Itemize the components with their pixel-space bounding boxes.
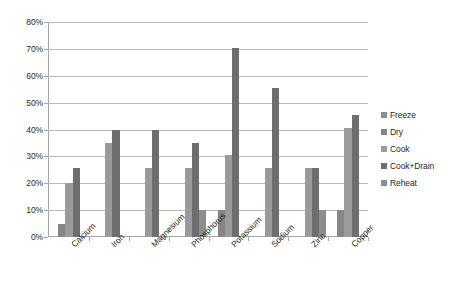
bar-slot — [305, 22, 312, 237]
bar — [73, 168, 80, 237]
y-axis-tick-mark — [44, 49, 48, 50]
bar-slot — [297, 22, 304, 237]
bar-slot — [352, 22, 359, 237]
legend-item-label: Cook — [390, 144, 409, 154]
legend-item-label: Reheat — [390, 178, 417, 188]
bar-slot — [265, 22, 272, 237]
bar-slot — [330, 22, 337, 237]
legend-item: Dry — [381, 123, 451, 140]
bar-group — [288, 22, 328, 237]
legend-swatch-icon — [381, 163, 387, 169]
bar-slot — [258, 22, 265, 237]
bar-slot — [178, 22, 185, 237]
legend-item-label: Dry — [390, 127, 403, 137]
bar-slot — [312, 22, 319, 237]
bar-slot — [65, 22, 72, 237]
bar — [105, 143, 112, 237]
bar — [232, 48, 239, 237]
bar — [265, 168, 272, 237]
x-axis-label-cell: Potassium — [209, 240, 249, 292]
y-axis-tick-label: 80% — [26, 17, 43, 27]
bar-group — [169, 22, 209, 237]
bar-slot — [199, 22, 206, 237]
bar-slot — [138, 22, 145, 237]
bar-slot — [80, 22, 87, 237]
bar-group — [328, 22, 368, 237]
bar-groups — [49, 22, 368, 237]
y-axis-tick-label: 70% — [26, 44, 43, 54]
bar — [352, 115, 359, 237]
bar — [65, 183, 72, 237]
x-axis-label-cell: Iron — [89, 240, 129, 292]
bar — [58, 224, 65, 237]
bar-slot — [58, 22, 65, 237]
bar — [344, 128, 351, 237]
legend-item: Cook+Drain — [381, 157, 451, 174]
bar-slot — [290, 22, 297, 237]
y-axis-tick-mark — [44, 130, 48, 131]
bar — [112, 130, 119, 238]
legend-item-label: Freeze — [390, 110, 416, 120]
bar-slot — [319, 22, 326, 237]
bar-slot — [359, 22, 366, 237]
legend-swatch-icon — [381, 180, 387, 186]
x-axis-label-cell: Sodium — [249, 240, 289, 292]
bar-slot — [344, 22, 351, 237]
bar-group — [129, 22, 169, 237]
x-axis-label-cell: Zinc — [289, 240, 329, 292]
x-axis-labels: CalciumIronMagnesiumPhosphorusPotassiumS… — [49, 240, 369, 292]
bar-slot — [91, 22, 98, 237]
legend-item-label: Cook+Drain — [390, 161, 434, 171]
bar — [337, 210, 344, 237]
bar-slot — [279, 22, 286, 237]
legend-item: Freeze — [381, 106, 451, 123]
bar-slot — [185, 22, 192, 237]
y-axis-tick-label: 60% — [26, 71, 43, 81]
bar-slot — [105, 22, 112, 237]
legend-swatch-icon — [381, 146, 387, 152]
y-axis-tick-label: 0% — [31, 232, 43, 242]
x-axis-label-cell: Phosphorus — [169, 240, 209, 292]
x-axis-label-cell: Copper — [329, 240, 369, 292]
y-axis-tick-mark — [44, 22, 48, 23]
legend-swatch-icon — [381, 129, 387, 135]
bar-slot — [192, 22, 199, 237]
plot-area: 0%10%20%30%40%50%60%70%80% — [48, 22, 368, 237]
y-axis-tick-mark — [44, 237, 48, 238]
bar-group — [248, 22, 288, 237]
y-axis-tick-mark — [44, 156, 48, 157]
bar — [312, 168, 319, 237]
bar — [152, 130, 159, 238]
bar-slot — [171, 22, 178, 237]
legend-item: Reheat — [381, 174, 451, 191]
bar-group — [49, 22, 89, 237]
bar-slot — [159, 22, 166, 237]
y-axis-tick-mark — [44, 76, 48, 77]
bar-slot — [98, 22, 105, 237]
bar — [192, 143, 199, 237]
bar-slot — [73, 22, 80, 237]
bar-slot — [112, 22, 119, 237]
bar-slot — [145, 22, 152, 237]
chart-legend: FreezeDryCookCook+DrainReheat — [381, 106, 451, 191]
y-axis-tick-mark — [44, 210, 48, 211]
bar — [305, 168, 312, 237]
y-axis-tick-label: 10% — [26, 205, 43, 215]
y-axis-tick-mark — [44, 103, 48, 104]
y-axis-tick-label: 50% — [26, 98, 43, 108]
bar-slot — [218, 22, 225, 237]
legend-swatch-icon — [381, 112, 387, 118]
x-axis-label-cell: Magnesium — [129, 240, 169, 292]
bar-slot — [120, 22, 127, 237]
bar-slot — [239, 22, 246, 237]
bar-slot — [131, 22, 138, 237]
bar-slot — [51, 22, 58, 237]
bar-slot — [211, 22, 218, 237]
y-axis-tick-label: 30% — [26, 151, 43, 161]
bar-slot — [232, 22, 239, 237]
bar-slot — [272, 22, 279, 237]
bar-group — [209, 22, 249, 237]
bar-group — [89, 22, 129, 237]
bar — [145, 168, 152, 237]
bar — [225, 155, 232, 237]
